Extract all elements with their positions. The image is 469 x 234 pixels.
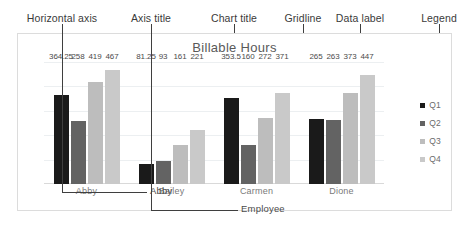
data-label: 272 (258, 52, 271, 61)
category-axis-labels: AbbyBaileyCarmenDione (44, 186, 384, 200)
bar-group: 364.25258419467 (54, 62, 120, 184)
bar[interactable]: 447 (360, 75, 375, 184)
legend-item[interactable]: Q2 (420, 118, 441, 128)
plot-area: 364.2525841946781.2593161221353.51602723… (44, 62, 384, 184)
annotation-label: Axis title (131, 12, 171, 24)
chart-container: Billable Hours 364.2525841946781.2593161… (17, 33, 452, 211)
chart-legend: Q1Q2Q3Q4 (420, 100, 441, 164)
data-label: 419 (88, 52, 101, 61)
category-label: Dione (299, 186, 384, 200)
data-label: 467 (105, 52, 118, 61)
bar-wrapper: 161 (173, 62, 188, 184)
legend-label: Q2 (429, 118, 441, 128)
bar[interactable]: 161 (173, 145, 188, 184)
data-label: 161 (173, 52, 186, 61)
annotation-label: Data label (336, 12, 384, 24)
data-label: 221 (190, 52, 203, 61)
bar-wrapper: 265 (309, 62, 324, 184)
legend-item[interactable]: Q4 (420, 154, 441, 164)
data-label: 364.25 (49, 52, 73, 61)
data-label: 93 (159, 52, 168, 61)
bar[interactable]: 81.25 (139, 164, 154, 184)
bar[interactable]: 364.25 (54, 95, 69, 184)
category-label: Abby (44, 186, 129, 200)
bar-wrapper: 373 (343, 62, 358, 184)
bar[interactable]: 353.5 (224, 98, 239, 184)
bar-group: 265263373447 (309, 62, 375, 184)
data-label: 265 (309, 52, 322, 61)
legend-label: Q4 (429, 154, 441, 164)
annotation-label: Horizontal axis (27, 12, 97, 24)
data-label: 160 (241, 52, 254, 61)
bar[interactable]: 467 (105, 70, 120, 184)
legend-swatch-icon (420, 139, 425, 144)
data-label: 353.5 (221, 52, 241, 61)
annotation-leader-line (62, 24, 63, 33)
annotation-leader-line (151, 24, 152, 33)
data-label: 263 (326, 52, 339, 61)
bar[interactable]: 258 (71, 121, 86, 184)
bar[interactable]: 263 (326, 120, 341, 184)
annotation-label: Chart title (211, 12, 257, 24)
bar[interactable]: 419 (88, 82, 103, 184)
bar-wrapper: 263 (326, 62, 341, 184)
bar[interactable]: 93 (156, 161, 171, 184)
bar[interactable]: 373 (343, 93, 358, 184)
category-label: Carmen (214, 186, 299, 200)
bar-groups: 364.2525841946781.2593161221353.51602723… (44, 62, 384, 184)
bar-wrapper: 364.25 (54, 62, 69, 184)
bar-wrapper: 93 (156, 62, 171, 184)
bar-wrapper: 447 (360, 62, 375, 184)
bar-wrapper: 160 (241, 62, 256, 184)
data-label: 258 (71, 52, 84, 61)
bar-wrapper: 81.25 (139, 62, 154, 184)
legend-swatch-icon (420, 103, 425, 108)
data-label: 447 (360, 52, 373, 61)
bar-wrapper: 258 (71, 62, 86, 184)
legend-label: Q3 (429, 136, 441, 146)
legend-label: Q1 (429, 100, 441, 110)
annotation-label: Gridline (285, 12, 322, 24)
bar-wrapper: 272 (258, 62, 273, 184)
bar-group: 81.2593161221 (139, 62, 205, 184)
bar[interactable]: 221 (190, 130, 205, 184)
annotation-label: Legend (421, 12, 457, 24)
legend-item[interactable]: Q1 (420, 100, 441, 110)
legend-swatch-icon (420, 121, 425, 126)
bar-group: 353.5160272371 (224, 62, 290, 184)
bar[interactable]: 160 (241, 145, 256, 184)
data-label: 371 (275, 52, 288, 61)
bar[interactable]: 371 (275, 93, 290, 184)
legend-swatch-icon (420, 157, 425, 162)
bar-wrapper: 371 (275, 62, 290, 184)
bar-wrapper: 353.5 (224, 62, 239, 184)
bar[interactable]: 272 (258, 118, 273, 184)
bar[interactable]: 265 (309, 119, 324, 184)
chart-annotation-figure: Horizontal axisAxis titleChart titleGrid… (0, 0, 469, 234)
bar-wrapper: 419 (88, 62, 103, 184)
bar-wrapper: 221 (190, 62, 205, 184)
legend-item[interactable]: Q3 (420, 136, 441, 146)
category-label: Bailey (129, 186, 214, 200)
data-label: 81.25 (136, 52, 156, 61)
data-label: 373 (343, 52, 356, 61)
bar-wrapper: 467 (105, 62, 120, 184)
